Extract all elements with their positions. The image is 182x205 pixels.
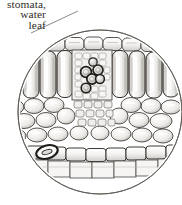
caption-leader-line bbox=[31, 11, 78, 33]
leaf-cross-section-figure bbox=[0, 0, 182, 205]
illustration-canvas: stomata, water leaf bbox=[0, 0, 182, 205]
layer-cuticle-band bbox=[4, 159, 182, 178]
